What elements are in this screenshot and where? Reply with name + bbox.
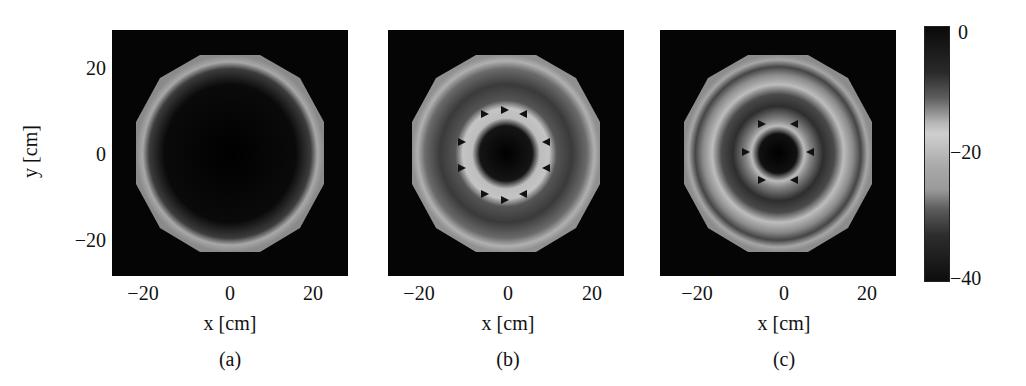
x-tick-a-neg20: −20 [127,282,158,305]
x-tick-a-20: 20 [303,282,323,305]
y-tick-neg20: −20 [66,229,106,252]
x-tick-b-0: 0 [503,282,513,305]
x-axis-label-a: x [cm] [204,312,257,335]
x-axis-label-b: x [cm] [482,312,535,335]
heatmap-panel-a [112,30,348,276]
x-tick-a-0: 0 [225,282,235,305]
subfigure-label-c: (c) [773,348,795,371]
heatmap-panel-c [660,30,896,276]
colorbar [924,26,950,282]
subfigure-label-b: (b) [496,348,519,371]
subfigure-label-a: (a) [219,348,241,371]
field-map-c [660,30,896,276]
y-tick-0: 0 [66,143,106,166]
x-tick-c-0: 0 [779,282,789,305]
y-axis-label: y [cm] [19,125,42,178]
x-tick-b-neg20: −20 [403,282,434,305]
y-tick-20: 20 [66,57,106,80]
colorbar-tick-neg40: −40 [950,267,981,290]
field-map-b [388,30,624,276]
heatmap-panel-b [388,30,624,276]
x-axis-label-c: x [cm] [758,312,811,335]
field-map-a [112,30,348,276]
colorbar-tick-neg20: −20 [950,141,981,164]
x-tick-c-20: 20 [857,282,877,305]
x-tick-b-20: 20 [582,282,602,305]
x-tick-c-neg20: −20 [681,282,712,305]
colorbar-tick-0: 0 [958,21,968,44]
